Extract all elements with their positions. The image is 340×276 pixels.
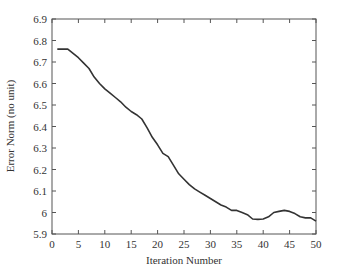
x-tick-label: 40: [258, 238, 270, 250]
x-tick-label: 30: [205, 238, 217, 250]
y-axis-label: Error Norm (no unit): [4, 79, 17, 172]
y-tick-label: 6.6: [33, 78, 47, 90]
y-tick-label: 6.3: [33, 142, 47, 154]
y-tick-label: 6.1: [33, 185, 47, 197]
line-chart: 5.966.16.26.36.46.56.66.76.86.9 05101520…: [0, 0, 340, 276]
y-axis-ticks: 5.966.16.26.36.46.56.66.76.86.9: [33, 13, 316, 240]
x-axis-ticks: 05101520253035404550: [49, 19, 322, 250]
x-tick-label: 25: [179, 238, 191, 250]
y-tick-label: 6.7: [33, 56, 47, 68]
y-tick-label: 6.9: [33, 13, 47, 25]
x-tick-label: 10: [99, 238, 111, 250]
error-norm-line: [57, 49, 316, 221]
y-tick-label: 6.5: [33, 99, 47, 111]
x-axis-label: Iteration Number: [146, 254, 222, 266]
y-tick-label: 5.9: [33, 228, 47, 240]
plot-border: [52, 19, 316, 234]
x-tick-label: 45: [284, 238, 296, 250]
x-tick-label: 5: [76, 238, 82, 250]
y-tick-label: 6.8: [33, 35, 47, 47]
x-tick-label: 0: [49, 238, 55, 250]
x-tick-label: 20: [152, 238, 164, 250]
x-tick-label: 50: [311, 238, 323, 250]
plot-frame: [52, 19, 316, 234]
x-tick-label: 35: [231, 238, 243, 250]
y-tick-label: 6.4: [33, 121, 47, 133]
y-tick-label: 6.2: [33, 164, 47, 176]
x-tick-label: 15: [126, 238, 138, 250]
y-tick-label: 6: [42, 207, 48, 219]
